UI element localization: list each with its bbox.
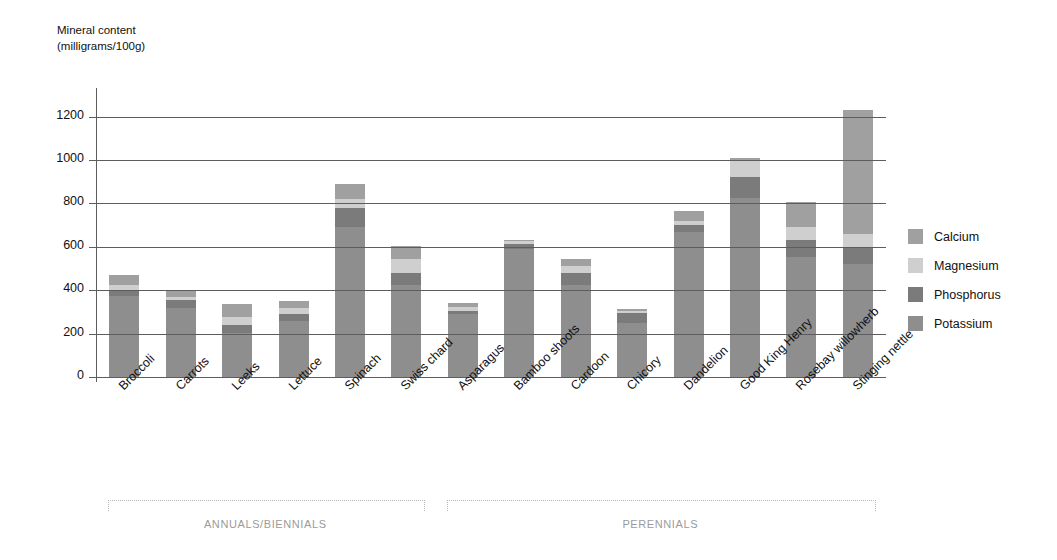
segment-calcium bbox=[786, 202, 816, 227]
bracket-perennials bbox=[447, 500, 876, 511]
y-axis-title: Mineral content (milligrams/100g) bbox=[57, 22, 145, 54]
segment-phosphorus bbox=[786, 240, 816, 256]
y-tick-label-200: 200 bbox=[34, 325, 84, 339]
x-axis-category-labels: BroccoliCarrotsLeeksLettuceSpinachSwiss … bbox=[96, 379, 886, 469]
segment-potassium bbox=[504, 249, 534, 377]
bar-spinach bbox=[335, 184, 365, 377]
segment-phosphorus bbox=[335, 208, 365, 228]
gridline-1200 bbox=[96, 117, 886, 118]
y-tick-mark-200 bbox=[89, 334, 96, 335]
y-tick-label-1200: 1200 bbox=[34, 108, 84, 122]
y-tick-mark-1200 bbox=[89, 117, 96, 118]
gridline-0 bbox=[96, 377, 886, 378]
y-tick-label-0: 0 bbox=[34, 368, 84, 382]
legend-swatch-calcium bbox=[908, 229, 923, 244]
segment-magnesium bbox=[730, 160, 760, 177]
legend-item-potassium[interactable]: Potassium bbox=[908, 309, 1048, 338]
segment-phosphorus bbox=[617, 313, 647, 323]
segment-phosphorus bbox=[561, 273, 591, 285]
plot-area bbox=[96, 95, 886, 377]
legend-item-calcium[interactable]: Calcium bbox=[908, 222, 1048, 251]
y-tick-mark-0 bbox=[89, 377, 96, 378]
bar-bamboo-shoots bbox=[504, 240, 534, 377]
bracket-annuals-biennials bbox=[108, 500, 425, 511]
bracket-label-annuals-biennials: ANNUALS/BIENNIALS bbox=[108, 518, 423, 530]
legend-label-calcium: Calcium bbox=[934, 230, 979, 244]
legend-label-phosphorus: Phosphorus bbox=[934, 288, 1001, 302]
segment-potassium bbox=[674, 232, 704, 377]
segment-phosphorus bbox=[843, 247, 873, 264]
legend-swatch-magnesium bbox=[908, 258, 923, 273]
y-tick-label-800: 800 bbox=[34, 194, 84, 208]
segment-calcium bbox=[335, 184, 365, 199]
y-tick-mark-400 bbox=[89, 290, 96, 291]
gridline-200 bbox=[96, 334, 886, 335]
y-tick-mark-600 bbox=[89, 247, 96, 248]
bar-cardoon bbox=[561, 259, 591, 377]
segment-potassium bbox=[335, 227, 365, 377]
bracket-label-perennials: PERENNIALS bbox=[447, 518, 874, 530]
legend-item-phosphorus[interactable]: Phosphorus bbox=[908, 280, 1048, 309]
segment-magnesium bbox=[391, 259, 421, 273]
gridline-800 bbox=[96, 203, 886, 204]
y-tick-label-1000: 1000 bbox=[34, 151, 84, 165]
segment-calcium bbox=[561, 259, 591, 267]
segment-phosphorus bbox=[222, 325, 252, 333]
segment-calcium bbox=[674, 211, 704, 221]
segment-calcium bbox=[109, 275, 139, 285]
segment-phosphorus bbox=[391, 273, 421, 285]
segment-calcium bbox=[843, 110, 873, 234]
gridline-600 bbox=[96, 247, 886, 248]
segment-magnesium bbox=[786, 227, 816, 240]
legend-label-potassium: Potassium bbox=[934, 317, 992, 331]
y-tick-label-400: 400 bbox=[34, 281, 84, 295]
segment-calcium bbox=[222, 304, 252, 317]
legend-swatch-potassium bbox=[908, 316, 923, 331]
bar-good-king-henry bbox=[730, 158, 760, 377]
gridline-1000 bbox=[96, 160, 886, 161]
bar-dandelion bbox=[674, 211, 704, 377]
mineral-content-stacked-bar-chart: Mineral content (milligrams/100g) 020040… bbox=[0, 0, 1057, 560]
segment-phosphorus bbox=[166, 300, 196, 308]
legend-label-magnesium: Magnesium bbox=[934, 259, 999, 273]
gridline-400 bbox=[96, 290, 886, 291]
legend-swatch-phosphorus bbox=[908, 287, 923, 302]
y-tick-label-600: 600 bbox=[34, 238, 84, 252]
bar-swiss-chard bbox=[391, 246, 421, 377]
segment-potassium bbox=[730, 198, 760, 377]
chart-legend: CalciumMagnesiumPhosphorusPotassium bbox=[908, 222, 1048, 338]
bar-series-container bbox=[96, 95, 886, 377]
segment-magnesium bbox=[222, 317, 252, 325]
y-tick-mark-800 bbox=[89, 203, 96, 204]
legend-item-magnesium[interactable]: Magnesium bbox=[908, 251, 1048, 280]
y-tick-mark-1000 bbox=[89, 160, 96, 161]
segment-phosphorus bbox=[730, 177, 760, 198]
segment-magnesium bbox=[843, 234, 873, 247]
